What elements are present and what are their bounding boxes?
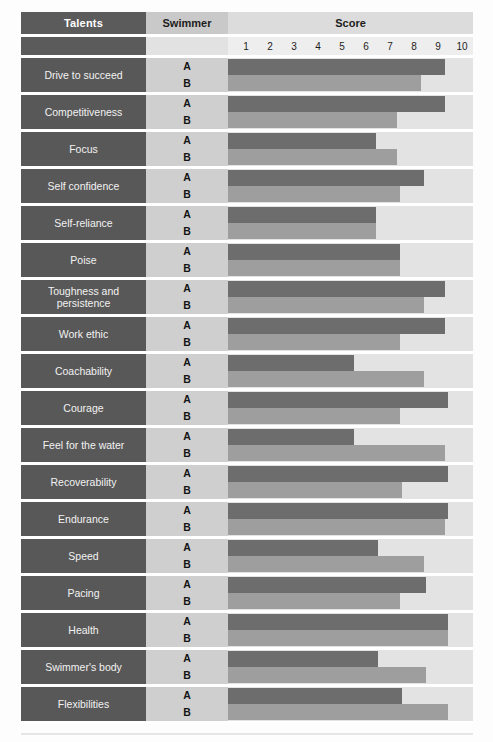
x-tick-8: 8 <box>402 37 426 55</box>
x-tick-4: 4 <box>306 37 330 55</box>
x-tick-2: 2 <box>258 37 282 55</box>
score-plot-cell <box>228 465 473 499</box>
swimmer-labels: AB <box>146 206 228 240</box>
header-swimmer: Swimmer <box>146 12 228 34</box>
table-row: EnduranceAB <box>21 502 473 536</box>
bar-a <box>228 392 448 408</box>
swimmer-label-a: A <box>183 317 191 334</box>
talent-label: Work ethic <box>21 317 146 351</box>
bar-a <box>228 577 426 593</box>
x-tick-10: 10 <box>450 37 474 55</box>
table-row: Self confidenceAB <box>21 169 473 203</box>
swimmer-label-a: A <box>183 391 191 408</box>
swimmer-labels: AB <box>146 391 228 425</box>
score-plot-cell <box>228 613 473 647</box>
swimmer-label-a: A <box>183 354 191 371</box>
table-row: Feel for the waterAB <box>21 428 473 462</box>
table-row: FocusAB <box>21 132 473 166</box>
score-plot-cell <box>228 428 473 462</box>
swimmer-label-b: B <box>183 223 191 240</box>
swimmer-label-b: B <box>183 630 191 647</box>
bar-b <box>228 260 400 276</box>
swimmer-labels: AB <box>146 650 228 684</box>
swimmer-label-a: A <box>183 428 191 445</box>
swimmer-label-a: A <box>183 58 191 75</box>
bar-a <box>228 540 378 556</box>
swimmer-label-b: B <box>183 112 191 129</box>
swimmer-label-b: B <box>183 667 191 684</box>
swimmer-label-b: B <box>183 408 191 425</box>
swimmer-label-b: B <box>183 334 191 351</box>
bar-b <box>228 334 400 350</box>
talent-label: Recoverability <box>21 465 146 499</box>
talent-label: Competitiveness <box>21 95 146 129</box>
swimmer-labels: AB <box>146 502 228 536</box>
table-row: Drive to succeedAB <box>21 58 473 92</box>
swimmer-label-b: B <box>183 445 191 462</box>
swimmer-label-a: A <box>183 169 191 186</box>
x-axis: 12345678910 <box>228 37 473 55</box>
bar-b <box>228 704 448 720</box>
table-row: Swimmer's bodyAB <box>21 650 473 684</box>
header-score: Score <box>228 12 473 34</box>
x-tick-3: 3 <box>282 37 306 55</box>
swimmer-label-b: B <box>183 186 191 203</box>
bar-a <box>228 244 400 260</box>
bar-a <box>228 207 376 223</box>
swimmer-label-b: B <box>183 556 191 573</box>
bar-b <box>228 482 402 498</box>
table-row: SpeedAB <box>21 539 473 573</box>
swimmer-label-b: B <box>183 371 191 388</box>
talents-score-table: Talents Swimmer Score 12345678910 Drive … <box>21 12 473 724</box>
table-row: RecoverabilityAB <box>21 465 473 499</box>
swimmer-label-a: A <box>183 539 191 556</box>
swimmer-label-a: A <box>183 280 191 297</box>
table-row: CoachabilityAB <box>21 354 473 388</box>
header-talents: Talents <box>21 12 146 34</box>
score-plot-cell <box>228 317 473 351</box>
talent-label: Courage <box>21 391 146 425</box>
bar-a <box>228 96 445 112</box>
axis-header-row: 12345678910 <box>21 37 473 55</box>
swimmer-label-b: B <box>183 482 191 499</box>
score-plot-cell <box>228 95 473 129</box>
bar-a <box>228 614 448 630</box>
score-plot-cell <box>228 206 473 240</box>
bar-b <box>228 519 445 535</box>
bar-a <box>228 59 445 75</box>
swimmer-label-b: B <box>183 260 191 277</box>
swimmer-label-a: A <box>183 576 191 593</box>
score-plot-cell <box>228 687 473 721</box>
table-header-row: Talents Swimmer Score <box>21 12 473 34</box>
talent-label: Self confidence <box>21 169 146 203</box>
swimmer-label-a: A <box>183 132 191 149</box>
swimmer-label-b: B <box>183 519 191 536</box>
chart-page: Talents Swimmer Score 12345678910 Drive … <box>0 0 493 742</box>
score-plot-cell <box>228 280 473 314</box>
score-plot-cell <box>228 391 473 425</box>
swimmer-label-a: A <box>183 243 191 260</box>
bar-b <box>228 667 426 683</box>
swimmer-label-b: B <box>183 75 191 92</box>
swimmer-label-b: B <box>183 704 191 721</box>
table-row: Self-relianceAB <box>21 206 473 240</box>
bar-b <box>228 371 424 387</box>
table-row: HealthAB <box>21 613 473 647</box>
swimmer-labels: AB <box>146 613 228 647</box>
talent-label: Poise <box>21 243 146 277</box>
talent-label: Endurance <box>21 502 146 536</box>
bottom-rule <box>21 733 473 735</box>
score-plot-cell <box>228 502 473 536</box>
bar-b <box>228 186 400 202</box>
swimmer-labels: AB <box>146 58 228 92</box>
talent-label: Flexibilities <box>21 687 146 721</box>
bar-b <box>228 297 424 313</box>
swimmer-label-a: A <box>183 650 191 667</box>
x-axis-ticks: 12345678910 <box>228 37 473 55</box>
score-plot-cell <box>228 576 473 610</box>
bar-b <box>228 149 397 165</box>
table-row: CourageAB <box>21 391 473 425</box>
bar-a <box>228 170 424 186</box>
swimmer-label-a: A <box>183 687 191 704</box>
swimmer-labels: AB <box>146 539 228 573</box>
